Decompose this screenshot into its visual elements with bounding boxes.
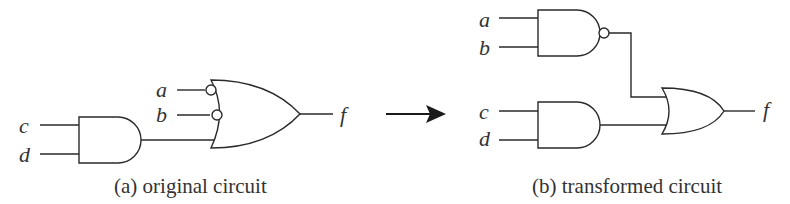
label-d-b: d <box>479 126 491 151</box>
or-gate-b <box>662 88 724 134</box>
circuit-diagram: c d a b f (a) original circuit a b c d f <box>0 0 790 204</box>
label-f-a: f <box>340 102 349 127</box>
inversion-bubble-b <box>212 110 222 120</box>
label-d-a: d <box>19 142 31 167</box>
caption-a: (a) original circuit <box>114 174 267 198</box>
panel-b-transformed-circuit: a b c d f (b) transformed circuit <box>479 7 772 198</box>
panel-a-original-circuit: c d a b f (a) original circuit <box>19 77 349 198</box>
nand-output-bubble <box>599 28 609 38</box>
nand-gate-ab <box>538 10 600 56</box>
transform-arrow <box>386 105 446 123</box>
inversion-bubble-a <box>206 85 216 95</box>
label-c-a: c <box>19 113 29 138</box>
or-gate-a <box>211 80 300 148</box>
and-gate-cd-a <box>79 117 141 163</box>
label-b-b: b <box>479 35 490 60</box>
caption-b: (b) transformed circuit <box>532 174 722 198</box>
and-gate-cd-b <box>538 102 600 148</box>
wire-nand-to-or <box>609 33 667 97</box>
label-a-a: a <box>156 77 167 102</box>
label-b-a: b <box>156 102 167 127</box>
label-f-b: f <box>763 97 772 122</box>
label-a-b: a <box>479 7 490 32</box>
label-c-b: c <box>479 99 489 124</box>
